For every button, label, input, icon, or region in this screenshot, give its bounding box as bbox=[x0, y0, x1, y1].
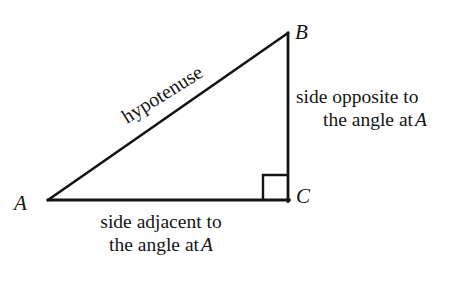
caption-side-adjacent-angle-var: A bbox=[199, 234, 213, 255]
caption-side-adjacent-line2-text: the angle at bbox=[109, 234, 199, 255]
vertex-label-c: C bbox=[296, 186, 310, 207]
caption-side-opposite-angle-var: A bbox=[413, 109, 427, 130]
vertex-label-a: A bbox=[14, 193, 27, 214]
caption-side-opposite-line1: side opposite to bbox=[296, 86, 418, 107]
caption-side-adjacent-line1: side adjacent to bbox=[78, 210, 244, 233]
hypotenuse-line bbox=[48, 33, 288, 200]
caption-side-opposite: side opposite to the angle atA bbox=[296, 85, 458, 131]
vertex-label-b: B bbox=[295, 22, 308, 43]
caption-side-adjacent: side adjacent to the angle atA bbox=[78, 210, 244, 256]
caption-side-adjacent-line2: the angle atA bbox=[78, 233, 244, 256]
figure-right-triangle: A B C hypotenuse side opposite to the an… bbox=[0, 0, 465, 284]
caption-side-opposite-line2-text: the angle at bbox=[323, 109, 413, 130]
right-angle-marker-icon bbox=[263, 175, 288, 200]
caption-side-opposite-line2: the angle atA bbox=[296, 108, 458, 131]
